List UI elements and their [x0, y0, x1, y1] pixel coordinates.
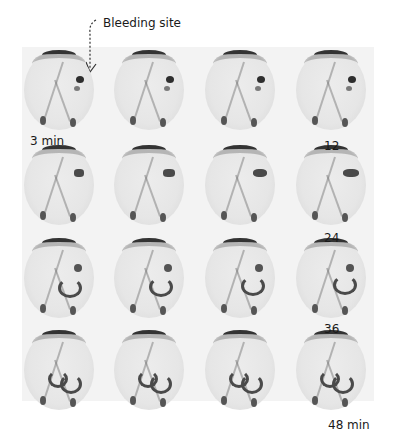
time-label-12: 12	[324, 139, 339, 153]
scan-frame	[205, 145, 275, 225]
time-label-3min: 3 min	[30, 134, 64, 148]
scan-frame	[296, 238, 366, 318]
scan-frame	[205, 330, 275, 410]
scan-frame	[205, 238, 275, 318]
scan-frame	[296, 50, 366, 130]
scan-frame	[205, 50, 275, 130]
time-label-48min: 48 min	[328, 418, 370, 432]
time-label-24: 24	[324, 231, 339, 245]
scan-frame	[114, 238, 184, 318]
scan-frame	[114, 50, 184, 130]
scan-frame	[24, 50, 94, 130]
scan-frame	[114, 330, 184, 410]
scan-frame	[24, 330, 94, 410]
scan-frame	[24, 145, 94, 225]
scan-frame	[24, 238, 94, 318]
scan-frame	[114, 145, 184, 225]
time-label-36: 36	[324, 322, 339, 336]
bleeding-site-annotation: Bleeding site	[103, 16, 181, 30]
scan-frame	[296, 145, 366, 225]
scan-frame	[296, 330, 366, 410]
